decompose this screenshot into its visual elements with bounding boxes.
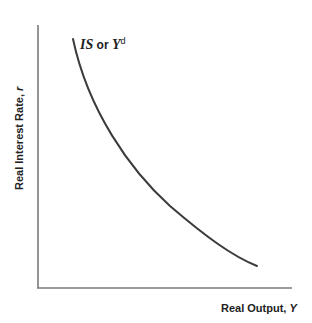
is-curve-diagram: IS or Yd Real Interest Rate, r Real Outp… [0,0,312,323]
y-axis-label: Real Interest Rate, r [13,86,25,190]
x-axis-label: Real Output, Y [221,302,298,314]
is-curve [73,39,257,266]
curve-label: IS or Yd [79,36,125,52]
